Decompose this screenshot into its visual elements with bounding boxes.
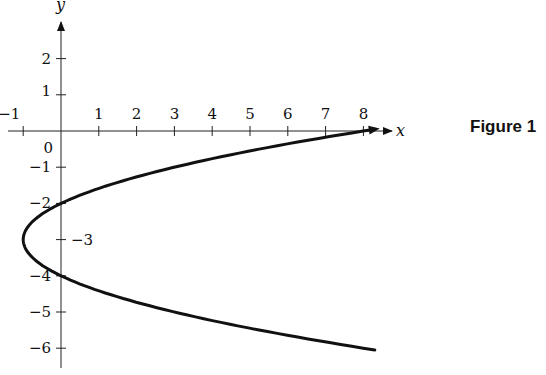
x-tick-label: 6 <box>283 105 293 123</box>
x-tick-label: 3 <box>170 105 180 123</box>
y-tick-label: 2 <box>41 50 51 68</box>
x-tick-label: 5 <box>245 105 255 123</box>
x-tick-label: 1 <box>94 105 104 123</box>
x-tick-label: 7 <box>321 105 331 123</box>
y-tick-label: 1 <box>41 82 51 100</box>
y-tick-label: −1 <box>29 158 51 176</box>
y-tick-label: −6 <box>29 339 51 357</box>
x-tick-label: 8 <box>359 105 369 123</box>
parabola-figure: −112345678 210−1−2−3−4−5−6 x y <box>0 0 546 375</box>
y-axis-label: y <box>55 0 66 14</box>
y-tick-label: 0 <box>43 139 53 157</box>
x-tick-label: 2 <box>132 105 142 123</box>
x-tick-label: 4 <box>207 105 217 123</box>
curve-arrow-icon <box>368 126 380 135</box>
x-tick-label: −1 <box>0 105 20 123</box>
x-axis-label: x <box>396 121 405 140</box>
figure-caption: Figure 1 <box>470 117 536 137</box>
y-tick-label: −3 <box>71 231 93 249</box>
y-tick-label: −5 <box>29 303 51 321</box>
